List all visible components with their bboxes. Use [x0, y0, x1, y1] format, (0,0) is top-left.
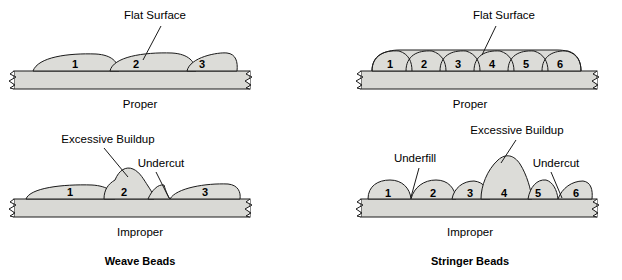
bead-number: 2	[421, 58, 427, 70]
bead-3-shape	[187, 53, 237, 71]
annotation-flat-surface: Flat Surface	[124, 9, 186, 21]
panel-caption: Proper	[123, 98, 158, 110]
panel-stringer-proper: 1 2 3 4 5 6 Flat Surface Proper	[356, 9, 599, 110]
bead-number: 3	[455, 58, 461, 70]
bead-number: 1	[72, 58, 78, 70]
group-title-right: Stringer Beads	[431, 255, 509, 267]
base-plate	[356, 199, 599, 217]
leader-line-excessive-buildup	[104, 148, 128, 177]
bead-number: 1	[387, 58, 393, 70]
panel-caption: Improper	[447, 226, 493, 238]
bead-number: 1	[67, 186, 73, 198]
bead-number: 2	[133, 58, 139, 70]
annotation-excessive-buildup: Excessive Buildup	[61, 133, 154, 145]
bead-number: 5	[523, 58, 529, 70]
panel-stringer-improper: 1 2 3 4 5 6 Underfill Excessive Buildup …	[356, 124, 599, 267]
bead-number: 3	[199, 58, 205, 70]
bead-5-shape	[528, 180, 558, 199]
annotation-undercut: Undercut	[138, 157, 185, 169]
bead-number: 6	[557, 58, 563, 70]
bead-number: 2	[121, 186, 127, 198]
bead-number: 6	[573, 187, 579, 199]
panel-caption: Improper	[117, 226, 163, 238]
bead-number: 4	[489, 58, 496, 70]
welding-bead-diagram: 1 2 3 Flat Surface Proper 1 2 3 Excessiv…	[0, 0, 622, 280]
bead-number: 4	[501, 187, 508, 199]
bead-number: 2	[430, 187, 436, 199]
bead-number: 1	[385, 187, 391, 199]
panel-weave-proper: 1 2 3 Flat Surface Proper	[9, 9, 252, 110]
base-plate	[9, 71, 252, 89]
bead-number: 3	[202, 186, 208, 198]
panel-weave-improper: 1 2 3 Excessive Buildup Undercut Imprope…	[9, 133, 252, 267]
base-plate	[9, 199, 252, 217]
annotation-flat-surface: Flat Surface	[473, 9, 535, 21]
panel-caption: Proper	[453, 98, 488, 110]
bead-number: 5	[535, 187, 541, 199]
group-title-left: Weave Beads	[105, 255, 176, 267]
annotation-excessive-buildup: Excessive Buildup	[470, 124, 563, 136]
bead-number: 3	[467, 187, 473, 199]
bead-2-excessive-buildup-shape	[104, 168, 154, 199]
annotation-undercut: Undercut	[533, 157, 580, 169]
bead-2-shape	[110, 53, 196, 71]
base-plate	[356, 71, 599, 89]
annotation-underfill: Underfill	[394, 152, 436, 164]
